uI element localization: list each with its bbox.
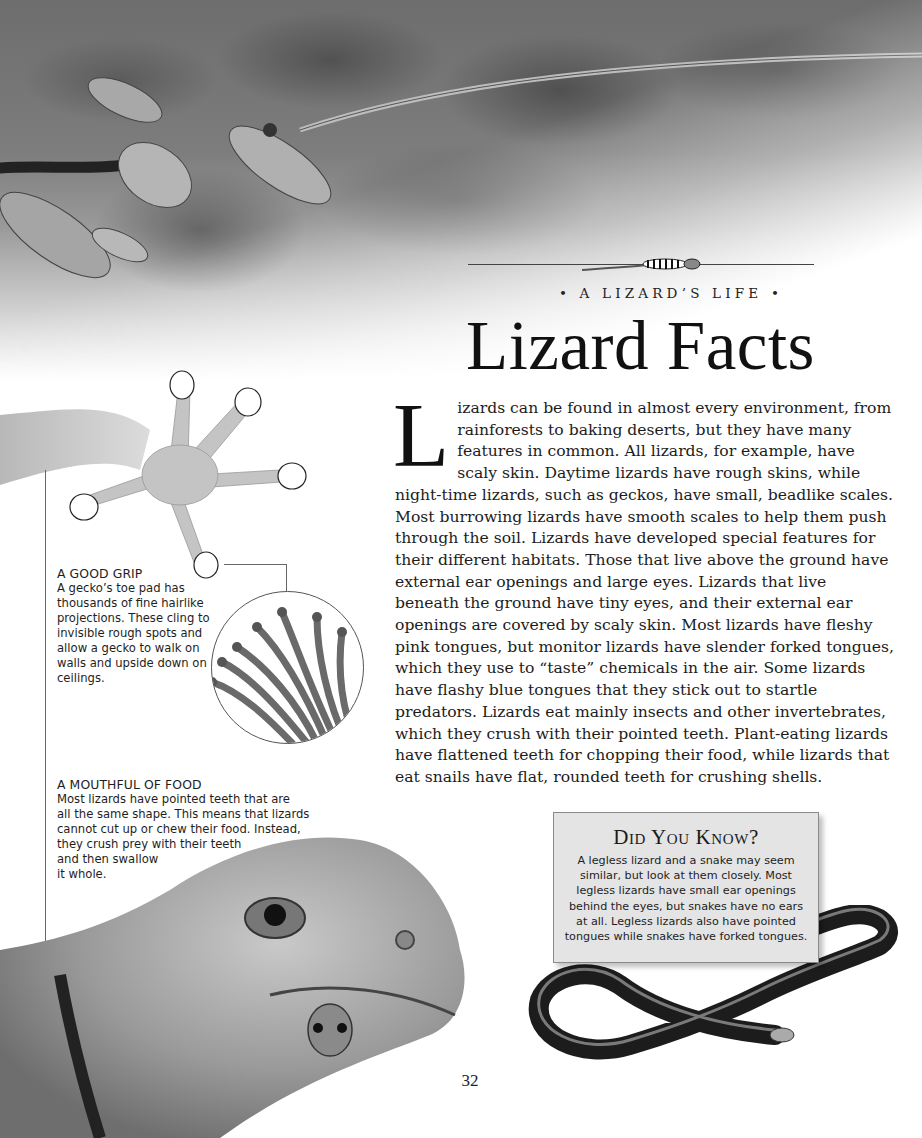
caption-line: all the same shape. This means that liza… — [57, 807, 327, 822]
page-title: Lizard Facts — [466, 312, 815, 381]
did-you-know-text: A legless lizard and a snake may seem si… — [564, 853, 808, 944]
did-you-know-line: behind the eyes, but snakes have no ears — [564, 899, 808, 914]
lizard-head-photo — [0, 830, 480, 1138]
striped-lizard-icon — [580, 254, 710, 278]
drop-cap: L — [393, 401, 449, 467]
did-you-know-line: A legless lizard and a snake may seem — [564, 853, 808, 868]
did-you-know-line: tongues while snakes have forked tongues… — [564, 929, 808, 944]
toe-pad-hairs-illustration — [212, 592, 363, 743]
did-you-know-line: similar, but look at them closely. Most — [564, 868, 808, 883]
section-kicker: • A LIZARD’S LIFE • — [440, 285, 902, 301]
magnifier-leader-line-vertical — [286, 564, 287, 592]
toe-pad-magnifier — [211, 591, 364, 744]
magnifier-leader-line — [224, 564, 287, 565]
caption-line: Most lizards have pointed teeth that are — [57, 792, 327, 807]
gecko-foot-illustration — [0, 360, 320, 590]
did-you-know-box: Did You Know? A legless lizard and a sna… — [553, 812, 819, 963]
caption-heading: A MOUTHFUL OF FOOD — [57, 777, 327, 792]
did-you-know-title: Did You Know? — [554, 825, 818, 850]
body-text: izards can be found in almost every envi… — [395, 399, 894, 786]
caption-text: A gecko’s toe pad has thousands of fine … — [57, 581, 212, 686]
did-you-know-line: legless lizards have small ear openings — [564, 883, 808, 898]
caption-good-grip: A GOOD GRIP A gecko’s toe pad has thousa… — [57, 566, 212, 686]
body-paragraph: Lizards can be found in almost every env… — [395, 398, 895, 789]
did-you-know-line: at all. Legless lizards also have pointe… — [564, 914, 808, 929]
caption-heading: A GOOD GRIP — [57, 566, 212, 581]
